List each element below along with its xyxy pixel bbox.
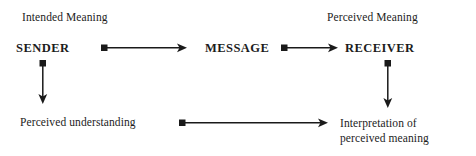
arrow-sender-to-perceived-understanding xyxy=(37,60,50,106)
communication-model-diagram: Intended Meaning Perceived Meaning SENDE… xyxy=(0,0,476,156)
outcome-interpretation-line-1: Interpretation of xyxy=(340,117,417,129)
caption-perceived-meaning: Perceived Meaning xyxy=(327,11,418,25)
square-tail-marker xyxy=(281,45,288,52)
caption-intended-meaning: Intended Meaning xyxy=(22,11,108,25)
arrow-sender-to-message xyxy=(101,42,189,55)
arrow-perceived-understanding-to-interpretation xyxy=(179,117,331,130)
arrow-receiver-to-interpretation xyxy=(382,60,395,110)
arrow-message-to-receiver xyxy=(281,42,341,55)
entity-message: MESSAGE xyxy=(205,41,269,56)
square-tail-marker xyxy=(179,120,186,127)
square-tail-marker xyxy=(101,45,108,52)
entity-receiver: RECEIVER xyxy=(345,41,415,56)
outcome-interpretation: Interpretation of perceived meaning xyxy=(340,116,448,146)
outcome-interpretation-line-2: perceived meaning xyxy=(340,132,429,144)
entity-sender: SENDER xyxy=(16,41,69,56)
outcome-perceived-understanding: Perceived understanding xyxy=(20,116,136,130)
